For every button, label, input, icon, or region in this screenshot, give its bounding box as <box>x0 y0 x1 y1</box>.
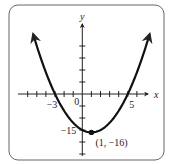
parabola-path <box>33 34 149 132</box>
x-tick-label: 0 <box>74 96 79 107</box>
parabola-curve <box>33 34 149 135</box>
graph-frame <box>9 5 164 160</box>
x-axis-label: x <box>153 89 159 100</box>
vertex-point <box>89 130 94 135</box>
vertex-label: (1, −16) <box>95 137 127 149</box>
x-tick-label: −3 <box>47 99 58 110</box>
x-tick-label: 5 <box>129 99 134 110</box>
y-tick-label: −15 <box>61 125 77 136</box>
parabola-graph: xy−305−15(1, −16) <box>0 0 169 164</box>
y-axis-label: y <box>79 11 85 22</box>
